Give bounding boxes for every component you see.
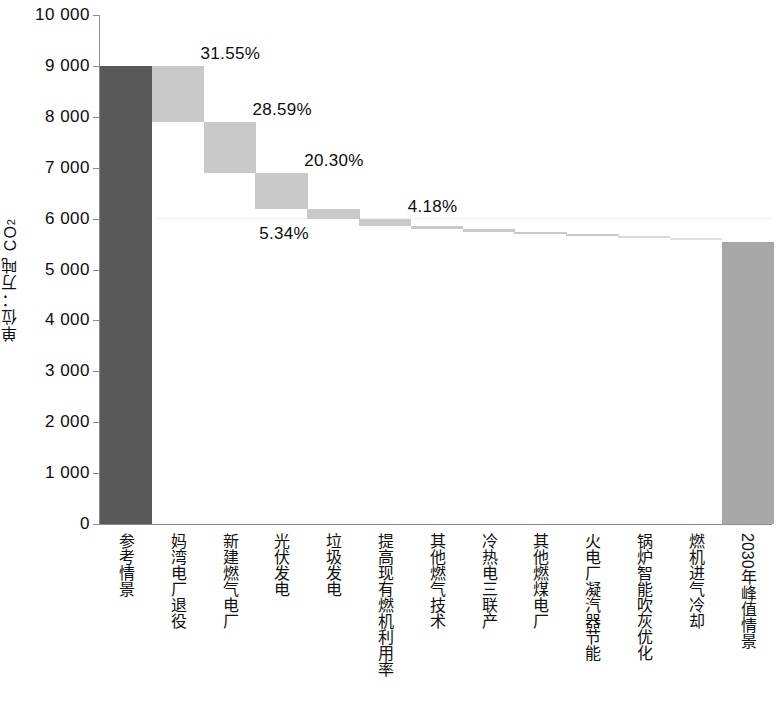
y-axis-tick-label-text: 4 000 — [2, 311, 90, 328]
x-axis-category-label: 垃圾发电 — [324, 533, 341, 597]
y-axis-tick-label: 10 000 — [0, 6, 90, 23]
x-axis-category-label: 火电厂凝汽器节能 — [583, 533, 600, 661]
x-axis-line — [99, 524, 772, 525]
y-axis-tick-label-text: 3 000 — [2, 362, 90, 379]
bar-4 — [255, 173, 307, 209]
bar-11 — [618, 236, 670, 238]
x-axis-category-label: 参考情景 — [117, 533, 134, 597]
y-axis-tick-label: 9 000 — [0, 57, 90, 74]
bar-5 — [307, 209, 359, 219]
waterfall-chart: 单位：万吨 CO2 01 0002 0003 0004 0005 0006 00… — [0, 0, 781, 728]
x-axis-category-label: 锅炉智能吹灰优化 — [635, 533, 652, 661]
y-axis-tick-label: 2 000 — [0, 413, 90, 430]
x-axis-category-label: 提高现有燃机利用率 — [376, 533, 393, 677]
y-axis-tick — [93, 168, 99, 169]
y-axis-tick-label-text: 7 000 — [2, 159, 90, 176]
bar-10 — [566, 234, 618, 236]
bar-value-label: 5.34% — [259, 225, 309, 242]
y-axis-tick-label: 5 000 — [0, 261, 90, 278]
bar-value-label: 28.59% — [252, 101, 311, 118]
bar-9 — [514, 232, 566, 234]
x-axis-category-label: 其他燃气技术 — [428, 533, 445, 629]
y-axis-tick — [93, 270, 99, 271]
y-axis-tick — [93, 117, 99, 118]
y-axis-tick-label: 8 000 — [0, 108, 90, 125]
bar-8 — [463, 229, 515, 232]
bar-1 — [100, 66, 152, 524]
x-axis-category-label: 2030年峰值情景 — [739, 533, 756, 649]
y-axis-tick-label: 4 000 — [0, 311, 90, 328]
y-axis-tick — [93, 422, 99, 423]
bar-3 — [204, 122, 256, 173]
bar-value-label: 20.30% — [304, 152, 363, 169]
bar-12 — [670, 238, 722, 240]
y-axis-tick-label: 1 000 — [0, 464, 90, 481]
y-axis-tick-label-text: 9 000 — [2, 57, 90, 74]
y-axis-tick — [93, 320, 99, 321]
bar-13 — [722, 242, 774, 524]
y-axis-tick — [93, 473, 99, 474]
x-axis-category-label: 其他燃煤电厂 — [531, 533, 548, 629]
bar-value-label: 4.18% — [408, 198, 458, 215]
y-axis-tick-label-text: 2 000 — [2, 413, 90, 430]
y-axis-tick-label: 0 — [0, 515, 90, 532]
y-axis-tick-label-text: 0 — [2, 515, 90, 532]
y-axis-tick — [93, 15, 99, 16]
y-axis-tick-label-text: 5 000 — [2, 261, 90, 278]
x-axis-category-label: 冷热电三联产 — [480, 533, 497, 629]
x-axis-category-label: 光伏发电 — [272, 533, 289, 597]
y-axis-tick-label: 3 000 — [0, 362, 90, 379]
bar-6 — [359, 219, 411, 226]
x-axis-category-label: 燃机进气冷却 — [687, 533, 704, 629]
bar-value-label: 31.55% — [201, 45, 260, 62]
x-axis-category-label: 妈湾电厂退役 — [169, 533, 186, 629]
y-axis-tick — [93, 219, 99, 220]
bar-7 — [411, 226, 463, 229]
y-axis-tick — [93, 66, 99, 67]
baseline-hairline — [156, 218, 772, 219]
y-axis-tick — [93, 371, 99, 372]
y-axis-tick-label: 7 000 — [0, 159, 90, 176]
y-axis-tick-label-text: 6 000 — [2, 210, 90, 227]
bar-2 — [152, 66, 204, 122]
x-axis-category-label: 新建燃气电厂 — [221, 533, 238, 629]
y-axis-tick-label-text: 8 000 — [2, 108, 90, 125]
y-axis-tick-label-text: 10 000 — [2, 6, 90, 23]
y-axis-tick-label: 6 000 — [0, 210, 90, 227]
y-axis-tick-label-text: 1 000 — [2, 464, 90, 481]
y-axis-tick — [93, 524, 99, 525]
